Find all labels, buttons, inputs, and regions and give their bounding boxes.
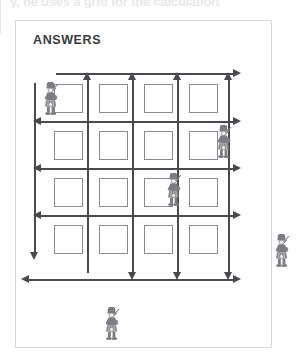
answer-box[interactable] [144,131,173,160]
top-horizontal-arrow-head-right [233,69,241,77]
piper-figure-center [164,173,184,207]
page-left-rule [0,0,1,34]
row-divider-1-arrow [40,121,234,123]
answer-box[interactable] [54,225,83,254]
answer-box[interactable] [189,225,218,254]
right-vertical-arrow [228,79,230,273]
row-divider-2-arrow-head-right [233,164,241,172]
bottom-horizontal-arrow-head-left [21,275,29,283]
col-divider-2-arrow [132,79,134,273]
answer-box[interactable] [99,131,128,160]
piper-figure-upper-right [214,125,234,159]
piper-figure-mid-right [272,234,292,268]
answer-box[interactable] [99,84,128,113]
col-divider-3-arrow-head-up [173,72,181,80]
answer-box[interactable] [189,178,218,207]
row-divider-1-arrow-head-right [233,117,241,125]
answer-box[interactable] [54,131,83,160]
piper-figure-bottom-left [102,307,122,341]
page-cut-off-text: y, he uses a grid for the calculation [10,0,300,8]
answer-box[interactable] [54,178,83,207]
multiplication-grid [16,21,271,347]
row-divider-3-arrow-head-right [233,211,241,219]
answer-box[interactable] [99,178,128,207]
answer-box[interactable] [144,225,173,254]
col-divider-2-arrow-head-down [128,272,136,280]
answer-box[interactable] [189,84,218,113]
bottom-horizontal-arrow-head-right [233,275,241,283]
row-divider-2-arrow [40,168,234,170]
left-vertical-arrow [34,83,36,253]
piper-figure-top-left [41,82,61,116]
row-divider-3-arrow [40,215,234,217]
answer-box[interactable] [144,84,173,113]
col-divider-1-arrow [87,79,89,273]
answer-box[interactable] [99,225,128,254]
answers-panel: ANSWERS [15,20,272,348]
col-divider-2-arrow-head-up [128,72,136,80]
col-divider-1-arrow-head-up [83,72,91,80]
right-vertical-arrow-head-up [224,72,232,80]
left-vertical-arrow-head-down [30,252,38,260]
col-divider-3-arrow-head-down [173,272,181,280]
right-vertical-arrow-head-down [224,272,232,280]
